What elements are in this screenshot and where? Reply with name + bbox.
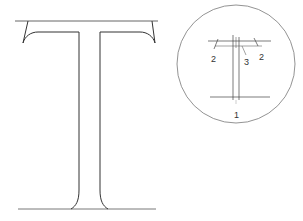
- inset-tick-right: [254, 38, 258, 46]
- label-2-left: 2: [211, 54, 216, 64]
- inset-leader-3: [242, 46, 246, 55]
- letter-t-diagram: 2 3 2 1: [0, 0, 303, 221]
- left-serif-outline: [23, 21, 79, 209]
- label-1: 1: [234, 110, 239, 120]
- inset-tick-left: [214, 39, 218, 49]
- inset-detail: 2 3 2 1: [177, 5, 295, 123]
- right-serif-outline: [100, 21, 155, 209]
- label-3: 3: [244, 57, 249, 67]
- inset-circle: [177, 5, 295, 123]
- main-letter-t: [15, 21, 158, 209]
- label-2-right: 2: [259, 52, 264, 62]
